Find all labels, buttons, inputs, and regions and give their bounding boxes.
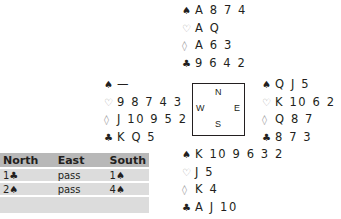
cards: K Q 5 [117,129,156,147]
spade-icon: ♠ [182,146,195,164]
cards: K 4 [195,181,218,199]
bid-cell: 2♠ [0,183,55,195]
north-spades: ♠A 8 7 4 [182,2,247,20]
bid-cell: 1♣ [0,169,55,181]
compass-east: E [234,103,240,113]
cards: A Q [195,20,220,38]
east-diamonds: ◊Q 8 7 [262,111,336,129]
diamond-icon: ◊ [104,111,117,129]
bidding-header: North East South [0,153,149,167]
bid-cell [55,197,108,213]
heart-icon: ♡ [182,20,195,38]
cards: — [117,76,130,94]
south-hand: ♠K 10 9 6 3 2 ♡J 5 ◊K 4 ♣A J 10 [182,146,284,216]
compass-west: W [196,103,205,113]
compass-south: S [215,119,221,129]
bid-cell: pass [55,183,108,195]
west-spades: ♠— [104,76,188,94]
compass-north: N [215,87,222,97]
south-hearts: ♡J 5 [182,164,284,182]
bid-cell: pass [55,169,108,181]
compass-box: N W E S [192,83,245,136]
bidding-row: 1♣ pass 1♠ [0,169,149,181]
east-hearts: ♡K 10 6 2 [262,94,336,112]
heart-icon: ♡ [104,94,117,112]
header-east: East [55,153,108,167]
spade-icon: ♠ [262,76,275,94]
north-hand: ♠A 8 7 4 ♡A Q ◊A 6 3 ♣9 6 4 2 [182,2,247,72]
cards: Q 8 7 [275,111,314,129]
east-spades: ♠Q J 5 [262,76,336,94]
bid-cell [0,197,55,213]
cards: Q J 5 [275,76,310,94]
cards: 9 8 7 4 3 [117,94,183,112]
east-clubs: ♣8 7 3 [262,129,336,147]
club-icon: ♣ [262,129,275,147]
cards: A J 10 [195,199,238,217]
diamond-icon: ◊ [182,181,195,199]
cards: J 10 9 5 2 [117,111,188,129]
spade-icon: ♠ [182,2,195,20]
north-clubs: ♣9 6 4 2 [182,55,247,73]
club-icon: ♣ [182,199,195,217]
west-clubs: ♣K Q 5 [104,129,188,147]
heart-icon: ♡ [182,164,195,182]
cards: 9 6 4 2 [195,55,246,73]
bid-cell: 4♠ [108,183,149,195]
bid-cell: 1♠ [108,169,149,181]
cards: 8 7 3 [275,129,312,147]
cards: K 10 6 2 [275,94,336,112]
west-diamonds: ◊J 10 9 5 2 [104,111,188,129]
cards: K 10 9 6 3 2 [195,146,284,164]
west-hand: ♠— ♡9 8 7 4 3 ◊J 10 9 5 2 ♣K Q 5 [104,76,188,146]
header-south: South [108,153,149,167]
bidding-row: 2♠ pass 4♠ [0,183,149,195]
east-hand: ♠Q J 5 ♡K 10 6 2 ◊Q 8 7 ♣8 7 3 [262,76,336,146]
diamond-icon: ◊ [262,111,275,129]
north-hearts: ♡A Q [182,20,247,38]
cards: A 8 7 4 [195,2,247,20]
north-diamonds: ◊A 6 3 [182,37,247,55]
spade-icon: ♠ [104,76,117,94]
club-icon: ♣ [182,55,195,73]
south-clubs: ♣A J 10 [182,199,284,217]
cards: A 6 3 [195,37,233,55]
west-hearts: ♡9 8 7 4 3 [104,94,188,112]
club-icon: ♣ [104,129,117,147]
bidding-table: North East South 1♣ pass 1♠ 2♠ pass 4♠ [0,151,149,215]
heart-icon: ♡ [262,94,275,112]
diamond-icon: ◊ [182,37,195,55]
south-spades: ♠K 10 9 6 3 2 [182,146,284,164]
header-north: North [0,153,55,167]
bid-cell [108,197,149,213]
bidding-row [0,197,149,213]
south-diamonds: ◊K 4 [182,181,284,199]
cards: J 5 [195,164,214,182]
